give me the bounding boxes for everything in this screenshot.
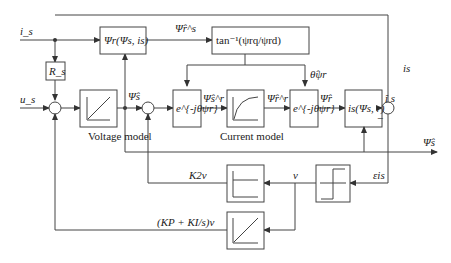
is-label: i_s (20, 25, 33, 37)
summer-2 (142, 102, 154, 114)
angle-calc-label: tan⁻¹(ψrq/ψrd) (216, 34, 281, 47)
current-model-label: Current model (220, 130, 284, 142)
summer-1 (49, 102, 61, 114)
svg-text:is: is (403, 62, 410, 74)
svg-text:Ψ̂s: Ψ̂s (128, 90, 141, 102)
svg-text:εis: εis (373, 169, 385, 181)
svg-text:Ψ̂r: Ψ̂r (320, 92, 333, 104)
voltage-model-label: Voltage model (88, 130, 152, 142)
svg-text:î s: î s (385, 92, 395, 104)
svg-text:Ψ̂s^r: Ψ̂s^r (203, 92, 225, 104)
svg-text:θ̂ψr: θ̂ψr (310, 68, 327, 80)
svg-text:Ψ̂r^s: Ψ̂r^s (175, 22, 196, 34)
block-diagram: i_s u_s R_s Ψr(Ψs, is) tan⁻¹(ψrq/ψrd) e^… (0, 0, 451, 263)
us-label: u_s (20, 93, 35, 105)
svg-text:Ψ̂r^r: Ψ̂r^r (267, 92, 289, 104)
flux-calc-label: Ψr(Ψs, is) (104, 34, 149, 47)
rs-label: R_s (48, 65, 66, 77)
svg-text:−: − (377, 112, 383, 124)
svg-text:v: v (293, 169, 298, 181)
svg-text:Ψ̂s: Ψ̂s (423, 136, 436, 148)
svg-text:K2v: K2v (188, 169, 207, 181)
svg-text:(KP + KI/s)v: (KP + KI/s)v (157, 216, 214, 229)
